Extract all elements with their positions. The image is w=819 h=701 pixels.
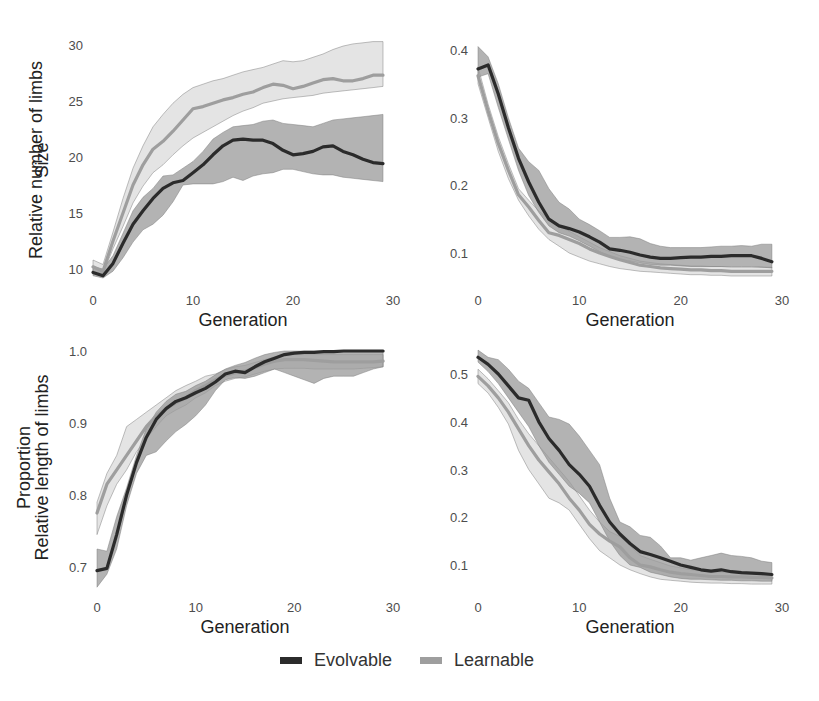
- line-learnable: [97, 360, 383, 513]
- x-tick-label: 20: [286, 293, 300, 308]
- x-axis-label: Generation: [198, 310, 287, 330]
- x-tick-label: 10: [572, 600, 586, 615]
- x-tick-label: 10: [188, 600, 202, 615]
- band-evolvable: [97, 351, 383, 587]
- x-tick-label: 20: [287, 600, 301, 615]
- y-tick-label: 0.4: [450, 43, 468, 58]
- y-tick-label: 30: [69, 38, 83, 53]
- x-axis-label: Generation: [585, 617, 674, 637]
- band-learnable: [97, 355, 383, 535]
- y-tick-label: 0.1: [450, 246, 468, 261]
- y-tick-label: 1.0: [69, 344, 87, 359]
- y-axis-label: Relative length of limbs: [32, 374, 52, 560]
- legend-label-evolvable: Evolvable: [314, 650, 392, 671]
- y-tick-label: 0.7: [69, 560, 87, 575]
- x-tick-label: 30: [386, 293, 400, 308]
- x-tick-label: 10: [572, 293, 586, 308]
- x-tick-label: 0: [89, 293, 96, 308]
- y-tick-label: 10: [69, 262, 83, 277]
- legend-swatch-evolvable: [280, 657, 302, 664]
- y-tick-label: 0.4: [450, 415, 468, 430]
- legend-label-learnable: Learnable: [454, 650, 534, 671]
- panel-3: 01020300.70.80.91.0GenerationRelative le…: [32, 344, 400, 637]
- x-tick-label: 0: [474, 293, 481, 308]
- y-tick-label: 20: [69, 150, 83, 165]
- legend-swatch-learnable: [420, 657, 442, 664]
- x-tick-label: 10: [186, 293, 200, 308]
- legend: Evolvable Learnable: [0, 645, 819, 675]
- x-tick-label: 20: [673, 293, 687, 308]
- y-tick-label: 0.5: [450, 367, 468, 382]
- x-tick-label: 30: [775, 600, 789, 615]
- legend-item-evolvable: Evolvable: [280, 645, 392, 675]
- x-tick-label: 30: [386, 600, 400, 615]
- x-tick-label: 0: [474, 600, 481, 615]
- y-axis-label: Relative number of limbs: [26, 61, 46, 259]
- y-tick-label: 0.1: [450, 558, 468, 573]
- y-tick-label: 0.2: [450, 510, 468, 525]
- figure-canvas: 01020301015202530GenerationSize01020300.…: [0, 0, 819, 701]
- legend-item-learnable: Learnable: [420, 645, 534, 675]
- y-tick-label: 0.3: [450, 111, 468, 126]
- panel-1: 01020301015202530GenerationSize: [32, 38, 400, 330]
- y-axis-label: Proportion: [14, 426, 34, 509]
- band-evolvable: [478, 350, 772, 581]
- y-tick-label: 25: [69, 94, 83, 109]
- band-evolvable: [478, 47, 772, 268]
- y-tick-label: 0.8: [69, 488, 87, 503]
- line-evolvable: [478, 65, 772, 262]
- y-tick-label: 0.9: [69, 416, 87, 431]
- x-tick-label: 20: [673, 600, 687, 615]
- x-axis-label: Generation: [585, 310, 674, 330]
- y-tick-label: 0.2: [450, 178, 468, 193]
- x-axis-label: Generation: [200, 617, 289, 637]
- x-tick-label: 0: [93, 600, 100, 615]
- y-tick-label: 15: [69, 206, 83, 221]
- x-tick-label: 30: [775, 293, 789, 308]
- y-tick-label: 0.3: [450, 463, 468, 478]
